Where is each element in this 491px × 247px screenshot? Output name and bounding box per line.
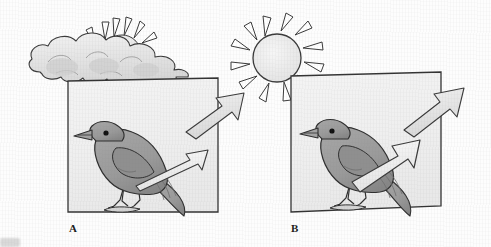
panel-label-a: A bbox=[69, 222, 77, 234]
scan-edge-artifact bbox=[0, 238, 20, 247]
figure-root: A B bbox=[0, 0, 491, 247]
figure-canvas bbox=[0, 0, 491, 247]
panel-label-b: B bbox=[291, 222, 299, 234]
panel-group: A B bbox=[0, 0, 491, 247]
panel-a-sky bbox=[29, 17, 188, 85]
cloud-icon bbox=[29, 33, 188, 85]
